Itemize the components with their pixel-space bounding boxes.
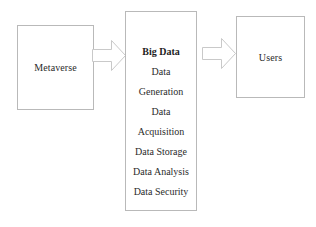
diagram-canvas: Metaverse Big Data Data Generation Data … — [0, 0, 316, 227]
big-data-item: Data Storage — [135, 142, 187, 162]
node-big-data: Big Data Data Generation Data Acquisitio… — [125, 11, 197, 211]
big-data-title: Big Data — [142, 42, 180, 62]
big-data-content: Big Data Data Generation Data Acquisitio… — [126, 42, 196, 202]
big-data-item: Acquisition — [138, 122, 185, 142]
right-block-arrow-icon-bigdata-to-users — [202, 37, 236, 70]
big-data-item: Data Security — [134, 182, 189, 202]
node-metaverse: Metaverse — [17, 25, 94, 110]
right-block-arrow-icon-metaverse-to-bigdata — [92, 39, 126, 72]
big-data-item: Data — [152, 102, 171, 122]
node-users-label: Users — [259, 51, 282, 64]
node-metaverse-label: Metaverse — [34, 61, 77, 74]
big-data-item: Data — [152, 62, 171, 82]
big-data-item: Data Analysis — [133, 162, 189, 182]
node-users: Users — [236, 16, 305, 98]
big-data-item: Generation — [139, 82, 183, 102]
